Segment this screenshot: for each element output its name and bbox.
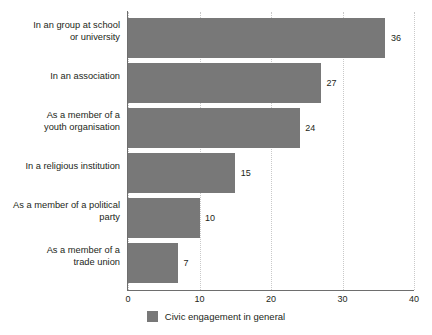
bar[interactable] <box>128 153 235 193</box>
category-label-line: or university <box>2 32 120 44</box>
category-label-line: In an group at school <box>2 20 120 32</box>
category-label-school: In an group at school or university <box>2 20 120 43</box>
xtick-label-40: 40 <box>399 294 429 305</box>
category-label-political-party: As a member of a political party <box>2 200 120 223</box>
bar[interactable] <box>128 243 178 283</box>
xtick-label-30: 30 <box>328 294 358 305</box>
bar-value-label: 36 <box>391 34 401 43</box>
bar-row: 10 <box>128 198 414 238</box>
bar[interactable] <box>128 18 385 58</box>
category-label-line: youth organisation <box>2 122 120 134</box>
bar-row: 24 <box>128 108 414 148</box>
category-label-association: In an association <box>2 71 120 83</box>
category-label-religious-institution: In a religious institution <box>2 161 120 173</box>
bar-row: 36 <box>128 18 414 58</box>
bar-value-label: 15 <box>241 169 251 178</box>
legend-label-civic-engagement: Civic engagement in general <box>165 311 285 322</box>
category-label-line: As a member of a <box>2 245 120 257</box>
gridline-40 <box>414 12 415 290</box>
category-label-line: In a religious institution <box>2 161 120 173</box>
y-axis-line <box>127 11 128 291</box>
bar[interactable] <box>128 108 300 148</box>
plot-area: 36 27 24 15 10 7 <box>128 12 414 290</box>
category-label-line: party <box>2 212 120 224</box>
chart-legend: Civic engagement in general <box>0 311 432 322</box>
category-label-line: trade union <box>2 257 120 269</box>
xtick-label-20: 20 <box>256 294 286 305</box>
bar-row: 7 <box>128 243 414 283</box>
category-label-line: As a member of a <box>2 110 120 122</box>
bar-value-label: 10 <box>205 214 215 223</box>
legend-swatch-civic-engagement <box>147 311 158 322</box>
category-label-line: In an association <box>2 71 120 83</box>
category-label-trade-union: As a member of a trade union <box>2 245 120 268</box>
xtick-label-0: 0 <box>113 294 143 305</box>
bar-value-label: 27 <box>327 79 337 88</box>
category-label-youth-organisation: As a member of a youth organisation <box>2 110 120 133</box>
bar-row: 27 <box>128 63 414 103</box>
bar-value-label: 24 <box>305 124 315 133</box>
bar-chart: 36 27 24 15 10 7 In an group <box>0 0 432 335</box>
bar-value-label: 7 <box>184 259 189 268</box>
bar[interactable] <box>128 198 200 238</box>
xtick-label-10: 10 <box>185 294 215 305</box>
bar-row: 15 <box>128 153 414 193</box>
bar[interactable] <box>128 63 321 103</box>
x-axis-line <box>127 290 414 291</box>
category-label-line: As a member of a political <box>2 200 120 212</box>
